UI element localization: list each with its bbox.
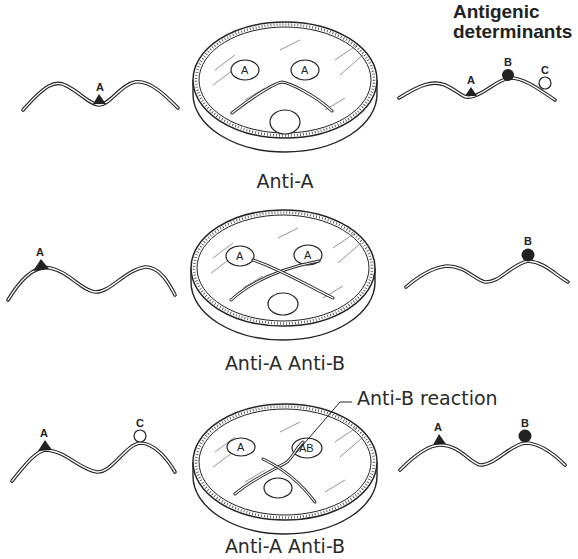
plate-1: A A [193, 22, 377, 152]
antibody-well [270, 110, 300, 134]
determinant-a-icon [38, 440, 52, 451]
label-c: C [136, 417, 144, 429]
immunodiffusion-diagram: A A A A B C [0, 0, 578, 559]
determinant-b-icon [502, 69, 514, 81]
left-molecule-3: A C [12, 417, 175, 481]
well-label: A [301, 64, 309, 76]
left-molecule-1: A [23, 81, 178, 110]
anti-b-reaction-label: Anti-B reaction [357, 387, 498, 409]
determinant-c-icon [539, 77, 551, 89]
caption-panel-1: Anti-A [225, 170, 345, 192]
antibody-well [268, 293, 298, 315]
plate-3: A AB [193, 404, 377, 534]
well-label: A [304, 249, 312, 261]
left-molecule-2: A [8, 246, 175, 300]
well-label: A [237, 441, 245, 453]
caption-panel-3: Anti-A Anti-B [205, 535, 365, 557]
determinant-a-icon [93, 94, 106, 104]
label-a: A [36, 246, 44, 258]
label-a: A [434, 421, 442, 433]
determinant-b-icon [519, 430, 532, 443]
well-label: A [236, 250, 244, 262]
determinant-b-icon [522, 249, 535, 262]
panel-3: A C A AB A B [12, 402, 565, 534]
panel-2: A A A B [8, 210, 568, 340]
label-a: A [40, 427, 48, 439]
label-a: A [96, 81, 104, 93]
right-molecule-1: A B C [399, 56, 555, 100]
plate-2: A A [191, 210, 375, 340]
label-b: B [504, 56, 512, 68]
right-molecule-3: A B [400, 417, 565, 470]
determinant-a-icon [465, 87, 477, 96]
antibody-well [264, 478, 292, 498]
determinant-c-icon [134, 430, 146, 442]
caption-panel-2: Anti-A Anti-B [205, 352, 365, 374]
determinant-a-icon [433, 434, 446, 445]
label-b: B [524, 235, 532, 247]
label-a: A [467, 74, 475, 86]
determinant-a-icon [33, 259, 49, 271]
panel-1: A A A A B C [23, 22, 555, 152]
label-b: B [521, 417, 529, 429]
well-label: A [241, 64, 249, 76]
right-molecule-2: B [406, 235, 568, 287]
label-c: C [541, 64, 549, 76]
